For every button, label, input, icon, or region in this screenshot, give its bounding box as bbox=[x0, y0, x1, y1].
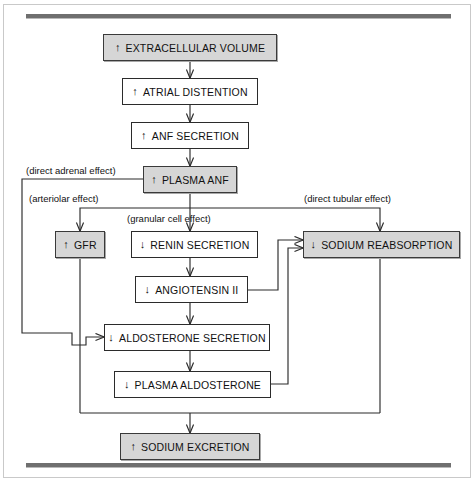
node-plasma-anf[interactable]: ↑ PLASMA ANF bbox=[143, 166, 237, 193]
figure-canvas: ↑ EXTRACELLULAR VOLUME ↑ ATRIAL DISTENTI… bbox=[0, 0, 476, 483]
node-extracellular-volume[interactable]: ↑ EXTRACELLULAR VOLUME bbox=[103, 34, 277, 61]
up-arrow-icon: ↑ bbox=[151, 174, 157, 185]
up-arrow-icon: ↑ bbox=[63, 239, 69, 250]
node-label: SODIUM EXCRETION bbox=[141, 441, 250, 453]
caption-granular-cell-effect: (granular cell effect) bbox=[127, 213, 211, 224]
node-gfr[interactable]: ↑ GFR bbox=[55, 231, 105, 258]
node-angiotensin-ii[interactable]: ↓ ANGIOTENSIN II bbox=[135, 276, 248, 303]
node-label: ANF SECRETION bbox=[152, 130, 239, 142]
down-arrow-icon: ↓ bbox=[311, 239, 317, 250]
node-sodium-excretion[interactable]: ↑ SODIUM EXCRETION bbox=[120, 433, 260, 460]
node-atrial-distention[interactable]: ↑ ATRIAL DISTENTION bbox=[122, 78, 258, 105]
node-label: EXTRACELLULAR VOLUME bbox=[126, 42, 266, 54]
caption-direct-adrenal-effect: (direct adrenal effect) bbox=[26, 165, 116, 176]
down-arrow-icon: ↓ bbox=[108, 332, 114, 343]
node-label: GFR bbox=[74, 239, 97, 251]
node-label: ANGIOTENSIN II bbox=[155, 284, 238, 296]
down-arrow-icon: ↓ bbox=[124, 379, 130, 390]
node-label: ALDOSTERONE SECRETION bbox=[119, 332, 266, 344]
caption-direct-tubular-effect: (direct tubular effect) bbox=[304, 193, 391, 204]
up-arrow-icon: ↑ bbox=[141, 130, 147, 141]
node-aldosterone-secretion[interactable]: ↓ ALDOSTERONE SECRETION bbox=[104, 324, 270, 351]
node-anf-secretion[interactable]: ↑ ANF SECRETION bbox=[131, 122, 249, 149]
up-arrow-icon: ↑ bbox=[130, 441, 136, 452]
node-label: PLASMA ANF bbox=[162, 174, 229, 186]
caption-arteriolar-effect: (arteriolar effect) bbox=[29, 193, 99, 204]
node-label: RENIN SECRETION bbox=[150, 239, 249, 251]
up-arrow-icon: ↑ bbox=[132, 86, 138, 97]
down-arrow-icon: ↓ bbox=[145, 284, 151, 295]
node-label: SODIUM REABSORPTION bbox=[321, 239, 452, 251]
node-renin-secretion[interactable]: ↓ RENIN SECRETION bbox=[131, 231, 258, 258]
up-arrow-icon: ↑ bbox=[115, 42, 121, 53]
down-arrow-icon: ↓ bbox=[140, 239, 146, 250]
node-sodium-reabsorption[interactable]: ↓ SODIUM REABSORPTION bbox=[303, 231, 460, 258]
node-plasma-aldosterone[interactable]: ↓ PLASMA ALDOSTERONE bbox=[114, 371, 271, 398]
node-label: PLASMA ALDOSTERONE bbox=[135, 379, 261, 391]
node-label: ATRIAL DISTENTION bbox=[143, 86, 248, 98]
